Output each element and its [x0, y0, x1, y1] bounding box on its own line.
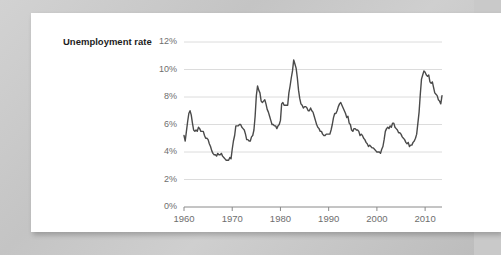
- x-axis-tick-label: 1980: [260, 213, 300, 224]
- x-axis-tick-label: 2000: [357, 213, 397, 224]
- y-axis-tick-label: 12%: [147, 36, 177, 46]
- x-axis-tick-label: 1990: [309, 213, 349, 224]
- y-axis-tick-label: 2%: [147, 174, 177, 184]
- x-axis-tick-label: 1970: [212, 213, 252, 224]
- x-axis-tick-label: 2010: [405, 213, 445, 224]
- y-axis-tick-label: 4%: [147, 146, 177, 156]
- data-line-unemployment-rate: [184, 60, 442, 160]
- y-axis-tick-label: 8%: [147, 91, 177, 101]
- y-axis-tick-label: 10%: [147, 64, 177, 74]
- y-axis-tick-label: 0%: [147, 201, 177, 211]
- x-axis-tick-label: 1960: [164, 213, 204, 224]
- y-axis-tick-label: 6%: [147, 119, 177, 129]
- chart-title: Unemployment rate: [63, 36, 152, 47]
